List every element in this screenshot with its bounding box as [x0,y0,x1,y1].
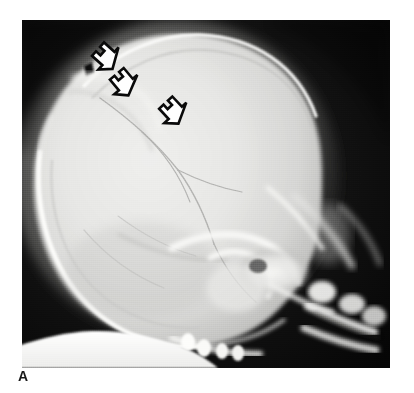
radiograph-image [22,20,390,368]
radiograph-plate [22,20,390,368]
figure-panel-label: A [18,369,28,383]
figure-root: A [0,0,414,393]
